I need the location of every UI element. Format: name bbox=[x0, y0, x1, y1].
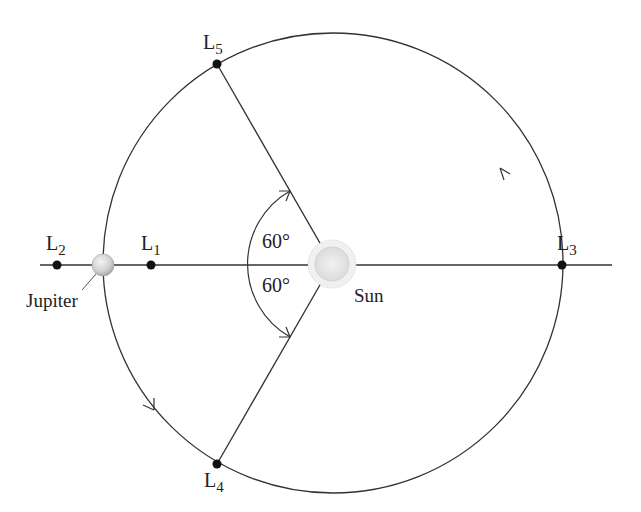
l1-point bbox=[147, 261, 156, 270]
lagrange-diagram: L5 L4 L2 L1 L3 Jupiter Sun 60° 60° bbox=[0, 0, 641, 512]
jupiter-label: Jupiter bbox=[26, 290, 78, 311]
l5-point bbox=[213, 60, 222, 69]
l5-label: L5 bbox=[203, 31, 223, 57]
angle-arc bbox=[248, 191, 290, 337]
l3-label: L3 bbox=[557, 232, 577, 258]
jupiter-icon bbox=[92, 254, 114, 276]
l2-point bbox=[53, 261, 62, 270]
l2-label: L2 bbox=[46, 232, 66, 258]
sun-icon bbox=[308, 240, 356, 288]
l4-point bbox=[213, 460, 222, 469]
l4-label: L4 bbox=[204, 469, 224, 495]
l1-label: L1 bbox=[141, 232, 161, 258]
angle-label-lower: 60° bbox=[262, 274, 290, 296]
sun-label: Sun bbox=[354, 285, 384, 306]
l3-point bbox=[558, 261, 567, 270]
jupiter-leader-line bbox=[82, 274, 96, 290]
orbit-arrow-upper-right-icon bbox=[500, 168, 510, 180]
angle-label-upper: 60° bbox=[262, 230, 290, 252]
